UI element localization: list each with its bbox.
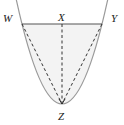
label-z: Z <box>58 110 65 122</box>
parabola-diagram: W X Y Z <box>0 0 124 125</box>
label-y: Y <box>111 12 119 24</box>
label-w: W <box>3 12 13 24</box>
label-x: X <box>57 11 66 23</box>
